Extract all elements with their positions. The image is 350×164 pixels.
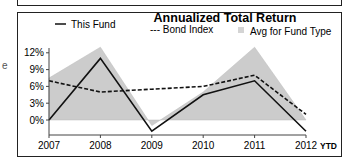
y-tick-label: 12% bbox=[24, 47, 44, 58]
plot-area bbox=[49, 47, 306, 131]
x-tick-label: 2012 bbox=[295, 140, 318, 151]
ytd-label: YTD bbox=[320, 141, 337, 151]
y-tick-label: 0% bbox=[30, 115, 45, 126]
y-tick-label: 6% bbox=[30, 81, 45, 92]
annualized-return-chart: Annualized Total Return This Fund --- Bo… bbox=[0, 0, 350, 164]
x-tick-label: 2011 bbox=[244, 140, 266, 151]
x-tick-label: 2010 bbox=[192, 140, 215, 151]
legend-avg-fund-type: Avg for Fund Type bbox=[250, 26, 332, 37]
legend-this-fund: This Fund bbox=[71, 19, 115, 30]
legend-bond-index: --- Bond Index bbox=[150, 24, 213, 35]
y-tick-label: 9% bbox=[30, 64, 45, 75]
y-tick-label: 3% bbox=[30, 98, 45, 109]
chart-title: Annualized Total Return bbox=[154, 11, 297, 25]
x-tick-label: 2009 bbox=[141, 140, 164, 151]
x-tick-label: 2007 bbox=[38, 140, 61, 151]
x-tick-label: 2008 bbox=[89, 140, 112, 151]
legend-area-swatch-icon bbox=[238, 27, 244, 33]
